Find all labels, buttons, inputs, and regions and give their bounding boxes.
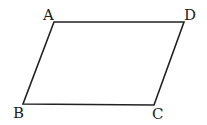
parallelogram-abcd: [23, 22, 184, 105]
parallelogram-diagram: A D C B: [0, 0, 207, 125]
vertex-label-b: B: [13, 104, 24, 122]
vertex-label-c: C: [152, 105, 163, 123]
vertex-label-a: A: [42, 6, 54, 24]
vertex-label-d: D: [184, 6, 196, 24]
